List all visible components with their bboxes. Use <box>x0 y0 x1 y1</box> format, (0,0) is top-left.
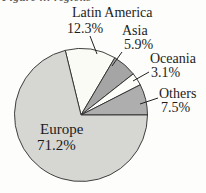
pie-chart-figure: Figure … regions Latin America 12.3% Asi… <box>0 0 206 193</box>
slice-pct-asia: 5.9% <box>124 38 153 53</box>
slice-pct-oceania: 3.1% <box>151 66 180 81</box>
slice-label-latin-america: Latin America <box>72 6 152 21</box>
slice-pct-latin-america: 12.3% <box>67 22 103 37</box>
slice-pct-others: 7.5% <box>161 101 190 116</box>
slice-label-europe: Europe <box>40 122 83 138</box>
slice-pct-europe: 71.2% <box>37 138 76 154</box>
